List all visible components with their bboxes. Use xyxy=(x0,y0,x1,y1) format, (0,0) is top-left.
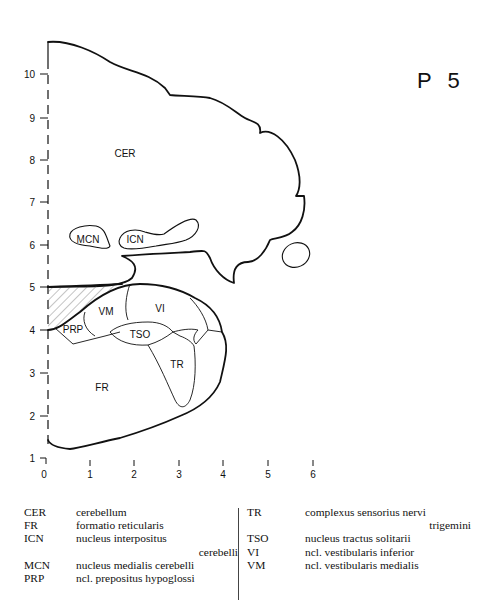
x-tick-6: 6 xyxy=(310,460,316,480)
legend-row: TRcomplexus sensorius nervi xyxy=(247,506,477,519)
legend-def: nucleus medialis cerebelli xyxy=(76,559,238,572)
legend-abbr: VM xyxy=(247,559,305,572)
x-tick-4: 4 xyxy=(220,460,226,480)
legend-def: cerebellum xyxy=(76,506,238,519)
svg-text:8: 8 xyxy=(29,155,35,166)
region-label-fr: FR xyxy=(95,382,108,393)
flocculus-oval xyxy=(278,238,314,272)
svg-text:2: 2 xyxy=(29,411,35,422)
region-label-tr: TR xyxy=(170,359,183,370)
legend-abbr: ICN xyxy=(24,532,76,545)
svg-text:0: 0 xyxy=(41,469,47,480)
atlas-diagram: 10 9 8 7 6 5 4 3 2 1 0 1 2 3 4 5 6 xyxy=(0,0,485,480)
y-tick-6: 6 xyxy=(29,240,48,251)
legend-left: CERcerebellum FRformatio reticularis ICN… xyxy=(24,506,238,585)
legend-def: ncl. vestibularis inferior xyxy=(305,546,477,559)
region-label-mcn: MCN xyxy=(77,234,100,245)
legend-row: ICNnucleus interpositus xyxy=(24,532,238,545)
y-tick-1: 1 xyxy=(29,453,46,464)
svg-text:1: 1 xyxy=(29,453,35,464)
plate-label: P 5 xyxy=(417,68,461,94)
svg-text:6: 6 xyxy=(310,469,316,480)
region-label-vi: VI xyxy=(155,303,164,314)
legend-right: TRcomplexus sensorius nervi trigemini TS… xyxy=(247,506,477,572)
svg-text:1: 1 xyxy=(87,469,93,480)
legend-row: TSOnucleus tractus solitarii xyxy=(247,532,477,545)
region-label-tso: TSO xyxy=(130,329,151,340)
y-tick-7: 7 xyxy=(29,197,48,208)
legend-abbr: VI xyxy=(247,546,305,559)
svg-text:7: 7 xyxy=(29,197,35,208)
legend-def: complexus sensorius nervi xyxy=(305,506,477,519)
svg-text:4: 4 xyxy=(220,469,226,480)
legend-row: FRformatio reticularis xyxy=(24,519,238,532)
legend-row: PRPncl. prepositus hypoglossi xyxy=(24,572,238,585)
legend-def: ncl. vestibularis medialis xyxy=(305,559,477,572)
y-axis: 10 9 8 7 6 5 4 3 2 1 xyxy=(24,69,48,464)
legend-abbr: MCN xyxy=(24,559,76,572)
legend-def-continuation: trigemini xyxy=(247,519,477,532)
legend-abbr: TR xyxy=(247,506,305,519)
svg-text:5: 5 xyxy=(265,469,271,480)
x-tick-3: 3 xyxy=(176,460,182,480)
y-tick-3: 3 xyxy=(29,368,48,379)
legend-row: VMncl. vestibularis medialis xyxy=(247,559,477,572)
legend-abbr: CER xyxy=(24,506,76,519)
region-label-cer: CER xyxy=(114,148,135,159)
x-tick-5: 5 xyxy=(265,460,271,480)
svg-text:6: 6 xyxy=(29,240,35,251)
x-tick-1: 1 xyxy=(87,460,93,480)
legend-def-continuation: cerebelli xyxy=(24,546,238,559)
region-label-icn: ICN xyxy=(126,234,143,245)
legend-row: VIncl. vestibularis inferior xyxy=(247,546,477,559)
svg-text:3: 3 xyxy=(29,368,35,379)
y-tick-4: 4 xyxy=(29,325,48,336)
legend-def: nucleus interpositus xyxy=(76,532,238,545)
y-tick-9: 9 xyxy=(29,113,48,124)
legend-abbr: PRP xyxy=(24,572,76,585)
legend-row: CERcerebellum xyxy=(24,506,238,519)
region-label-prp: PRP xyxy=(63,324,84,335)
legend-divider xyxy=(238,508,239,600)
svg-text:9: 9 xyxy=(29,113,35,124)
region-label-vm: VM xyxy=(99,306,114,317)
y-tick-2: 2 xyxy=(29,411,48,422)
y-tick-10: 10 xyxy=(24,69,48,80)
svg-text:10: 10 xyxy=(24,69,36,80)
x-tick-2: 2 xyxy=(131,460,137,480)
legend-def: ncl. prepositus hypoglossi xyxy=(76,572,238,585)
svg-text:2: 2 xyxy=(131,469,137,480)
legend-def: formatio reticularis xyxy=(76,519,238,532)
svg-text:3: 3 xyxy=(176,469,182,480)
cerebellum-outline xyxy=(48,42,305,287)
legend-abbr: TSO xyxy=(247,532,305,545)
svg-text:4: 4 xyxy=(29,325,35,336)
x-axis: 0 1 2 3 4 5 6 xyxy=(41,460,316,480)
legend-row: MCNnucleus medialis cerebelli xyxy=(24,559,238,572)
legend-def: nucleus tractus solitarii xyxy=(305,532,477,545)
svg-text:5: 5 xyxy=(29,282,35,293)
legend-abbr: FR xyxy=(24,519,76,532)
y-tick-5: 5 xyxy=(29,282,48,293)
y-tick-8: 8 xyxy=(29,155,48,166)
